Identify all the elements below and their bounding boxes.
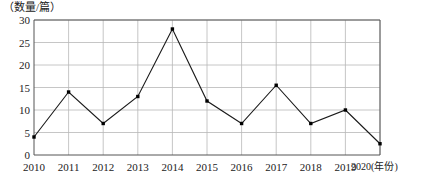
plot-area: 0510152025302010201120122013201420152016…	[0, 0, 423, 186]
y-axis-tick-label: 5	[4, 127, 30, 139]
x-axis-tick-label: 2014	[161, 161, 183, 173]
y-axis-tick-label: 25	[4, 37, 30, 49]
y-axis-tick-label: 20	[4, 59, 30, 71]
data-point-marker	[205, 99, 208, 102]
data-point-marker	[344, 108, 347, 111]
data-point-marker	[378, 142, 381, 145]
x-axis-tick-label: 2013	[127, 161, 149, 173]
x-axis-tick-label: 2012	[92, 161, 114, 173]
data-point-marker	[171, 27, 174, 30]
x-axis-tick-label: 2017	[265, 161, 287, 173]
data-point-marker	[32, 135, 35, 138]
data-point-marker	[67, 90, 70, 93]
x-axis-tick-label: 2015	[196, 161, 218, 173]
y-axis-tick-label: 15	[4, 82, 30, 94]
y-axis-tick-label: 10	[4, 104, 30, 116]
data-point-marker	[309, 122, 312, 125]
x-axis-tick-label: 2016	[231, 161, 253, 173]
line-chart: （数量/篇） 051015202530201020112012201320142…	[0, 0, 423, 186]
x-axis-tick-label: 2010	[23, 161, 45, 173]
data-point-marker	[240, 122, 243, 125]
y-axis-tick-label: 30	[4, 14, 30, 26]
data-point-marker	[136, 95, 139, 98]
x-axis-tick-label: 2018	[300, 161, 322, 173]
data-point-marker	[275, 84, 278, 87]
x-axis-tick-label: 2011	[58, 161, 80, 173]
x-axis-tick-label: 2020(年份)	[351, 161, 398, 173]
data-point-marker	[102, 122, 105, 125]
gridlines	[34, 20, 380, 155]
y-axis-tick-label: 0	[4, 149, 30, 161]
plot-svg	[0, 0, 423, 186]
